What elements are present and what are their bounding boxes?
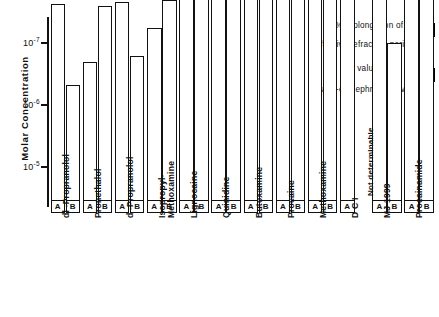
y-tick-mark-2 <box>41 104 48 106</box>
y-tick-label-2-exp: -6 <box>34 98 40 105</box>
y-tick-label-2-mantissa: 10 <box>23 100 34 110</box>
bar-a-7 <box>276 0 291 207</box>
x-label-8: Methoxamine <box>319 161 328 218</box>
plot-area <box>48 17 434 207</box>
x-label-5: Quinidine <box>222 177 231 218</box>
bar-a-9 <box>340 0 355 207</box>
chart-root: 25% prolongation of effective refractory… <box>0 0 439 317</box>
x-label-10: MJ 1999 <box>383 183 392 218</box>
x-label-0: dl -Propranolol <box>62 154 71 218</box>
series-key-row: ABABABABABABABABABAABAB <box>48 200 434 213</box>
x-label-2: d -Propranolol <box>126 156 135 218</box>
y-tick-label-1-mantissa: 10 <box>23 38 34 48</box>
x-label-4: Lignocaine <box>190 171 199 218</box>
bar-b-7 <box>291 0 306 207</box>
y-tick-label-1: 10-7 <box>23 36 40 48</box>
y-tick-label-3-exp: -5 <box>34 160 40 167</box>
y-tick-label-3: 10-5 <box>23 160 40 172</box>
x-label-6: Butoxamine <box>255 167 264 218</box>
x-label-11: Procainamide <box>415 159 424 218</box>
x-label-7: Procaine <box>287 180 296 218</box>
y-tick-label-2: 10-6 <box>23 98 40 110</box>
y-tick-mark-1 <box>41 42 48 44</box>
x-label-9: D C I <box>351 197 360 218</box>
annotation-not-determinable: Not determinable <box>366 127 375 196</box>
x-label-3: Isopropyl- Methoxamine <box>158 161 176 218</box>
y-tick-label-1-exp: -7 <box>34 36 40 43</box>
x-label-1: Pronethalol <box>94 169 103 218</box>
y-tick-label-3-mantissa: 10 <box>23 162 34 172</box>
y-tick-mark-3 <box>41 166 48 168</box>
y-axis-ticks: 10-7 10-6 10-5 <box>0 0 40 210</box>
